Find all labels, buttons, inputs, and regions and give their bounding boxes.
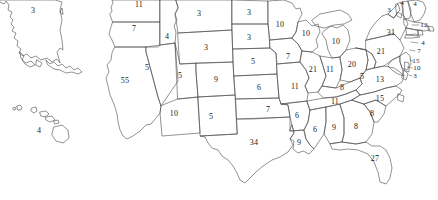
- state-shape-michigan-up: [312, 10, 352, 28]
- state-votes-mt: 3: [197, 10, 201, 18]
- state-votes-de: 3: [413, 73, 417, 80]
- state-votes-ks: 6: [257, 84, 261, 92]
- state-votes-ky: 8: [340, 84, 344, 92]
- state-votes-wa: 11: [135, 1, 143, 9]
- state-votes-ga: 8: [354, 123, 358, 131]
- state-votes-ne: 5: [251, 58, 255, 66]
- state-votes-wi: 10: [302, 30, 310, 38]
- state-shape-alaska: [0, 0, 82, 74]
- state-votes-sd: 3: [247, 34, 251, 42]
- state-votes-ak: 3: [31, 7, 35, 15]
- state-votes-sc: 8: [370, 110, 374, 118]
- us-electoral-map: 3411755455103395335673410711691021101120…: [0, 0, 438, 200]
- state-shape-montana: [175, 0, 232, 33]
- map-outlines: [0, 0, 438, 200]
- state-votes-va: 13: [376, 76, 384, 84]
- state-votes-ri: 4: [421, 40, 425, 47]
- state-votes-al: 9: [332, 124, 336, 132]
- state-shape-hawaii: [13, 105, 69, 143]
- state-votes-ia: 7: [286, 53, 290, 61]
- state-votes-la: 9: [297, 139, 301, 147]
- state-votes-ma: 12: [420, 22, 427, 29]
- state-votes-ms: 6: [313, 126, 317, 134]
- state-votes-in: 11: [326, 66, 334, 74]
- state-votes-nm: 5: [209, 113, 213, 121]
- state-votes-oh: 20: [348, 61, 356, 69]
- state-votes-tx: 34: [250, 139, 258, 147]
- state-votes-ny: 31: [387, 29, 395, 37]
- state-shape-nevada: [146, 43, 178, 106]
- state-votes-nh: 4: [400, 0, 404, 7]
- state-shape-maryland: [388, 56, 404, 76]
- state-votes-fl: 27: [371, 155, 379, 163]
- state-votes-ca: 55: [121, 77, 129, 85]
- state-votes-wv: 5: [360, 73, 364, 81]
- state-votes-il: 21: [309, 66, 317, 74]
- state-shape-oklahoma: [236, 98, 290, 119]
- state-votes-or: 7: [132, 25, 136, 33]
- state-votes-mn: 10: [276, 21, 284, 29]
- state-votes-nc: 15: [376, 95, 384, 103]
- state-votes-wy: 3: [204, 44, 208, 52]
- state-votes-ok: 7: [266, 106, 270, 114]
- state-votes-ar: 6: [295, 112, 299, 120]
- state-votes-nv: 5: [145, 64, 149, 72]
- state-votes-id: 4: [165, 33, 169, 41]
- state-votes-tn: 11: [331, 98, 339, 106]
- state-shape-california: [106, 47, 161, 139]
- state-shape-new-mexico: [198, 95, 237, 136]
- state-votes-pa: 21: [377, 48, 385, 56]
- state-votes-az: 10: [170, 110, 178, 118]
- state-shape-florida: [330, 142, 392, 184]
- state-votes-mo: 11: [291, 83, 299, 91]
- state-shape-minnesota: [268, 0, 302, 40]
- state-votes-vt: 3: [387, 7, 391, 14]
- state-votes-md: 10: [413, 65, 420, 72]
- state-votes-ct: 7: [417, 48, 421, 55]
- state-votes-ut: 5: [178, 72, 182, 80]
- state-votes-co: 9: [214, 76, 218, 84]
- state-shape-louisiana: [290, 125, 314, 154]
- state-votes-hi: 4: [37, 127, 41, 135]
- state-shape-south-carolina: [364, 100, 386, 122]
- state-votes-nd: 3: [247, 9, 251, 17]
- state-shape-cape-cod: [428, 26, 434, 31]
- state-shape-west-virginia: [356, 48, 376, 70]
- state-shape-texas: [200, 117, 294, 183]
- state-votes-mi: 10: [332, 38, 340, 46]
- state-shape-arizona: [160, 97, 200, 136]
- state-votes-me: 4: [413, 1, 417, 8]
